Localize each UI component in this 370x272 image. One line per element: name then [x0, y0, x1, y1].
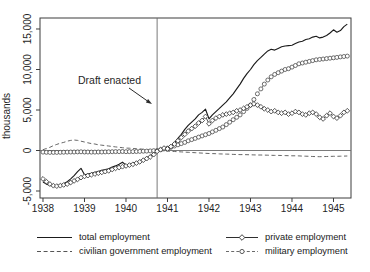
circle-marker	[266, 78, 270, 82]
x-tick-label: 1941	[156, 203, 179, 214]
draft-enacted-annotation: Draft enacted	[78, 74, 141, 86]
x-tick-label: 1945	[322, 203, 345, 214]
legend-swatch-dashed-line-icon	[36, 246, 73, 257]
x-tick-label: 1939	[73, 203, 96, 214]
legend-item-total-employment: total employment	[36, 231, 150, 243]
x-tick-label: 1944	[281, 203, 304, 214]
y-axis-title: thousands	[1, 93, 12, 139]
legend-swatch-solid-line-icon	[36, 232, 73, 243]
y-tick-label: 10,000	[22, 54, 33, 85]
legend-label-military-employment: military employment	[265, 245, 348, 257]
y-tick-label: 0	[22, 147, 33, 153]
x-tick-label: 1942	[198, 203, 221, 214]
circle-marker	[252, 98, 256, 102]
circle-marker	[255, 92, 259, 96]
legend-item-private-employment: private employment	[225, 231, 346, 243]
x-tick-label: 1940	[115, 203, 138, 214]
legend-item-civilian-government-employment: civilian government employment	[36, 245, 212, 257]
legend-swatch-solid-diamond-icon	[225, 232, 259, 243]
circle-marker	[262, 82, 266, 86]
x-tick-label: 1938	[32, 203, 55, 214]
legend-label-civilian-government-employment: civilian government employment	[79, 245, 212, 257]
y-tick-label: -5,000	[22, 176, 33, 205]
legend-label-private-employment: private employment	[265, 231, 346, 243]
employment-chart-figure: 19381939194019411942194319441945-5,00005…	[0, 0, 370, 272]
legend-item-military-employment: military employment	[225, 245, 348, 257]
circle-marker	[238, 113, 242, 117]
legend-label-total-employment: total employment	[79, 231, 150, 243]
legend-swatch-dashed-circle-icon	[225, 246, 259, 257]
y-tick-label: 5,000	[22, 97, 33, 122]
x-tick-label: 1943	[239, 203, 262, 214]
circle-marker	[345, 54, 349, 58]
circle-marker	[259, 87, 263, 91]
plot-border	[40, 18, 351, 198]
y-tick-label: 15,000	[22, 13, 33, 44]
